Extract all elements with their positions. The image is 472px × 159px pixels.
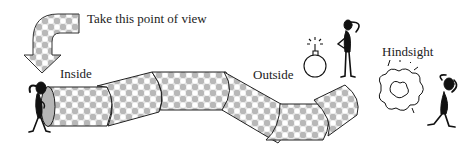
segmented-tube [41, 72, 358, 143]
inside-label: Inside [60, 67, 92, 80]
outside-label: Outside [253, 68, 293, 81]
explosion-cloud-icon [379, 60, 423, 113]
thinking-figure-icon [338, 20, 359, 77]
head-in-hands-figure-icon [428, 75, 457, 127]
bomb-icon [304, 37, 326, 77]
hindsight-label: Hindsight [382, 45, 433, 58]
instruction-label: Take this point of view [87, 12, 207, 25]
diagram: Take this point of view Inside Outside H… [0, 0, 472, 159]
curved-down-arrow-icon [24, 14, 79, 73]
